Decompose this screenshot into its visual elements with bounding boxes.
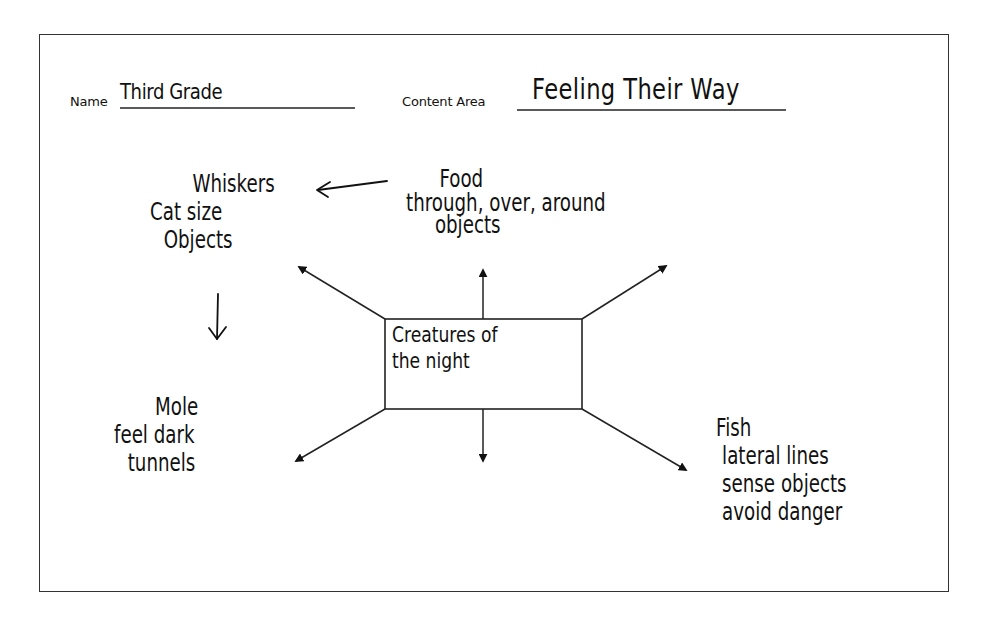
node-fish-line-2: lateral lines [716,442,847,470]
node-whiskers-line-3: Objects [150,226,287,254]
node-fish-line-3: sense objects [716,470,847,498]
center-line-1: Creatures of [392,322,498,348]
content-area-value: Feeling Their Way [532,72,740,106]
node-mole-line-1: Mole [114,393,198,421]
node-fish-line-4: avoid danger [716,498,847,526]
node-whiskers-line-2: Cat size [150,198,287,226]
center-line-2: the night [392,348,498,374]
node-mole-line-3: tunnels [114,449,198,477]
node-whiskers: Whiskers Cat size Objects [150,170,287,254]
node-whiskers-line-1: Whiskers [150,170,287,198]
center-concept: Creatures of the night [392,322,498,374]
node-fish: Fish lateral lines sense objects avoid d… [716,414,847,526]
name-label: Name [70,94,108,109]
node-mole-line-2: feel dark [114,421,198,449]
content-area-label: Content Area [402,94,485,109]
node-food: Food through, over, around objects [406,165,606,239]
node-mole: Mole feel dark tunnels [114,393,198,477]
node-fish-line-1: Fish [716,414,847,442]
name-value: Third Grade [120,79,222,104]
